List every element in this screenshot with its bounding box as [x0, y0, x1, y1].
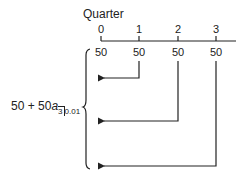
present-value-formula: 50 + 50a30.01	[11, 99, 80, 113]
formula-lead: 50 + 50	[11, 99, 51, 113]
timeline-lines	[0, 0, 244, 178]
annuity-timeline-diagram: Quarter 0 1 2 3 50 50 50 50 50 + 50a30.0…	[0, 0, 244, 178]
annuity-rate: 0.01	[65, 107, 81, 116]
arrow-1	[104, 61, 139, 78]
arrow-2	[104, 61, 178, 121]
brace	[83, 49, 90, 169]
arrow-3	[104, 61, 216, 166]
